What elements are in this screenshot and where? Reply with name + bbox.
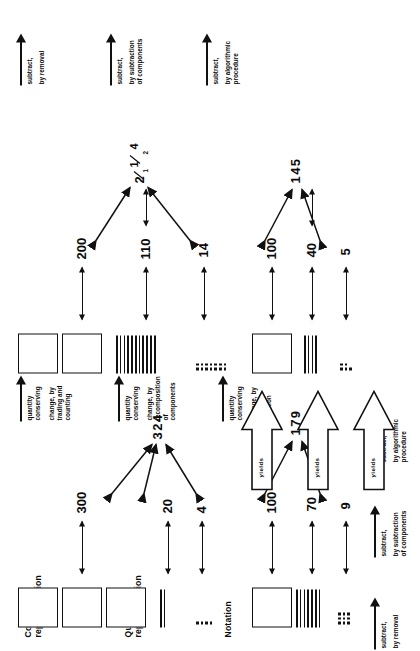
operation-line-1: subtract, <box>26 57 33 84</box>
operation-line-2: by subtraction <box>128 40 135 84</box>
ten-line-bundle <box>304 335 319 373</box>
operation-line-3: of components <box>136 38 143 84</box>
operation-line-1: subtract, <box>380 621 387 648</box>
hundred-square <box>252 587 292 627</box>
transform-line-1: quantity <box>26 395 33 420</box>
transform-arrow <box>222 377 224 421</box>
transform-arrow <box>118 377 120 421</box>
transform-line-1: quantity <box>228 395 235 420</box>
transform-line-3: change, by <box>48 387 55 420</box>
operation-line-1: subtract, <box>116 57 123 84</box>
quantity-100-subtrahend: 100 <box>264 237 279 259</box>
yields-block-arrow: yields <box>240 387 284 491</box>
transform-label-recomposition: quantity conserving change, by recomposi… <box>110 375 188 423</box>
transform-line-1: quantity <box>124 395 131 420</box>
quantity-300: 300 <box>74 491 89 513</box>
ten-line-bundle <box>116 335 158 373</box>
quantity-14: 14 <box>196 243 211 257</box>
equivalence-arrow <box>346 267 347 319</box>
equivalence-arrow <box>204 267 205 319</box>
transform-line-4: trading and <box>56 385 63 420</box>
quantity-5: 5 <box>338 248 353 255</box>
yields-label: yields <box>313 457 320 477</box>
operation-line-1: subtract, <box>380 529 387 556</box>
yields-block-arrow: yields <box>296 387 340 491</box>
hundred-square <box>252 333 292 373</box>
equivalence-arrow <box>168 521 169 573</box>
unit-dot-grid <box>196 363 226 370</box>
operation-arrow <box>374 507 376 557</box>
quantity-200: 200 <box>74 237 89 259</box>
transform-arrow <box>20 377 22 421</box>
notation-regrouped-324: 2 1 1 2 4 <box>126 117 160 183</box>
unit-dot-grid <box>340 363 352 370</box>
quantity-100-difference: 100 <box>264 491 279 513</box>
operation-line-3: of components <box>400 510 407 556</box>
equivalence-arrow <box>146 189 147 225</box>
equivalence-arrow <box>312 267 313 319</box>
unit-dot-grid <box>338 612 350 624</box>
quantity-110: 110 <box>138 238 153 259</box>
operation-label-removal-top: subtract, by removal <box>12 31 84 87</box>
quantity-9: 9 <box>338 502 353 509</box>
unit-dot-grid <box>196 621 212 624</box>
operation-line-2: by removal <box>38 50 45 84</box>
operation-label-components-top: subtract, by subtraction of components <box>102 31 178 87</box>
equivalence-arrow <box>312 189 313 225</box>
operation-arrow <box>206 35 208 85</box>
yields-label: yields <box>369 457 376 477</box>
quantity-4: 4 <box>194 506 209 513</box>
transform-label-trading: quantity conserving change, by trading a… <box>12 375 84 423</box>
hundred-square <box>62 587 102 627</box>
operation-label-algorithmic-top: subtract, by algorithmic procedure <box>198 31 274 87</box>
operation-line-1: subtract, <box>212 57 219 84</box>
ten-line-bundle <box>160 589 168 627</box>
transform-line-2: conserving <box>34 386 41 420</box>
equivalence-arrow <box>82 521 83 573</box>
transform-line-2: conserving <box>132 386 139 420</box>
hundred-square <box>18 333 58 373</box>
operation-label-removal-bottom: subtract, by removal <box>366 595 418 651</box>
hundred-square <box>106 587 146 627</box>
hundred-square <box>62 333 102 373</box>
ten-line-bundle <box>296 589 322 627</box>
operation-arrow <box>20 35 22 85</box>
operation-line-2: by removal <box>392 614 399 648</box>
operation-line-3: procedure <box>400 431 407 462</box>
operation-line-2: by algorithmic <box>224 40 231 84</box>
strikethrough-marks <box>126 117 160 183</box>
equivalence-arrow <box>272 267 273 319</box>
transform-line-5: of components <box>162 375 177 420</box>
operation-label-components-bottom: subtract, by subtraction of components <box>366 503 418 559</box>
quantity-20: 20 <box>160 499 175 513</box>
transform-line-5: counting <box>64 393 71 420</box>
operation-line-2: by subtraction <box>392 512 399 556</box>
notation-145: 145 <box>288 157 303 183</box>
yields-block-arrow: yields <box>352 387 396 491</box>
equivalence-arrow <box>346 521 347 573</box>
transform-line-4: recomposition <box>154 376 161 420</box>
operation-line-3: procedure <box>232 53 239 84</box>
equivalence-arrow <box>272 521 273 573</box>
equivalence-arrow <box>202 521 203 573</box>
equivalence-arrow <box>146 267 147 319</box>
operation-arrow <box>374 599 376 649</box>
row-label-notation: Notation <box>224 545 234 637</box>
hundred-square <box>18 587 58 627</box>
equivalence-arrow <box>312 521 313 573</box>
quantity-70: 70 <box>304 497 319 511</box>
transform-line-3: change, by <box>146 387 153 420</box>
quantity-40: 40 <box>304 243 319 257</box>
equivalence-arrow <box>82 267 83 319</box>
operation-arrow <box>110 35 112 85</box>
yields-label: yields <box>257 457 264 477</box>
